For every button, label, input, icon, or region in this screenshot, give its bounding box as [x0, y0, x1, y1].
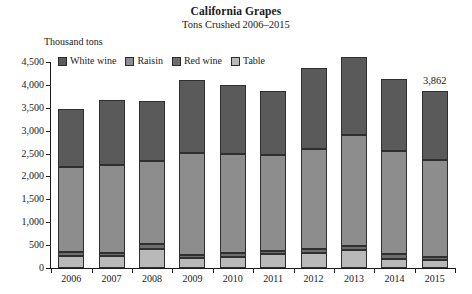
bar-segment-table[interactable]	[99, 256, 125, 268]
bar-segment-table[interactable]	[381, 259, 407, 268]
bar-segment-white-wine[interactable]	[260, 91, 286, 156]
bar-value-label: 3,862	[423, 76, 447, 86]
bar-segment-white-wine[interactable]	[381, 79, 407, 150]
bar-2008[interactable]	[139, 101, 165, 268]
x-axis-tick-label: 2008	[142, 274, 162, 284]
bar-segment-white-wine[interactable]	[301, 68, 327, 149]
bar-segment-raisin[interactable]	[220, 154, 246, 253]
bar-segment-raisin[interactable]	[422, 160, 448, 257]
bar-2009[interactable]	[179, 80, 205, 268]
x-axis-tick-label: 2006	[61, 274, 81, 284]
bar-segment-red-wine[interactable]	[99, 253, 125, 256]
bar-segment-white-wine[interactable]	[99, 100, 125, 165]
y-axis-tick-label: 4,500	[22, 57, 45, 67]
x-axis-tick	[374, 268, 375, 273]
x-axis-tick-label: 2010	[223, 274, 243, 284]
y-axis-tick	[46, 131, 51, 132]
y-axis-tick	[46, 62, 51, 63]
chart-subtitle: Tons Crushed 2006–2015	[0, 19, 472, 30]
bar-segment-table[interactable]	[58, 256, 84, 268]
y-axis-tick	[46, 154, 51, 155]
bar-2011[interactable]	[260, 91, 286, 268]
x-axis-tick	[415, 268, 416, 273]
bar-segment-table[interactable]	[260, 254, 286, 268]
x-axis-tick-label: 2011	[263, 274, 283, 284]
bar-segment-white-wine[interactable]	[422, 91, 448, 159]
y-axis-tick	[46, 222, 51, 223]
bar-segment-raisin[interactable]	[301, 149, 327, 249]
bar-segment-raisin[interactable]	[58, 167, 84, 252]
y-axis-tick	[46, 245, 51, 246]
y-axis-tick-label: 1,000	[22, 217, 45, 227]
x-axis-tick	[51, 268, 52, 273]
bar-2012[interactable]	[301, 68, 327, 268]
bar-segment-red-wine[interactable]	[301, 249, 327, 253]
bar-2013[interactable]	[341, 57, 367, 268]
x-axis-tick	[334, 268, 335, 273]
y-axis-tick-label: 0	[39, 263, 44, 273]
bar-segment-table[interactable]	[179, 258, 205, 268]
bar-segment-raisin[interactable]	[99, 165, 125, 253]
bar-segment-table[interactable]	[422, 260, 448, 268]
chart-title: California Grapes	[0, 5, 472, 17]
x-axis-tick-label: 2009	[182, 274, 202, 284]
y-axis-tick	[46, 108, 51, 109]
x-axis-tick-label: 2007	[102, 274, 122, 284]
y-axis-tick	[46, 176, 51, 177]
bar-2014[interactable]	[381, 79, 407, 268]
y-axis-tick-label: 3,000	[22, 126, 45, 136]
bar-segment-red-wine[interactable]	[139, 244, 165, 249]
bar-segment-raisin[interactable]	[381, 151, 407, 254]
x-axis-tick-label: 2015	[425, 274, 445, 284]
bar-segment-table[interactable]	[220, 257, 246, 268]
bar-2007[interactable]	[99, 100, 125, 268]
x-axis-tick	[172, 268, 173, 273]
y-axis-tick-label: 3,500	[22, 103, 45, 113]
x-axis-tick	[253, 268, 254, 273]
x-axis-tick	[132, 268, 133, 273]
bar-segment-raisin[interactable]	[139, 161, 165, 244]
bar-segment-white-wine[interactable]	[341, 57, 367, 136]
y-axis-tick-label: 2,000	[22, 171, 45, 181]
plot-area: 05001,0001,5002,0002,5003,0003,5004,0004…	[51, 62, 455, 268]
bar-segment-raisin[interactable]	[341, 135, 367, 246]
bar-segment-white-wine[interactable]	[220, 85, 246, 154]
bar-2010[interactable]	[220, 85, 246, 268]
x-axis-tick	[294, 268, 295, 273]
bar-segment-red-wine[interactable]	[422, 257, 448, 261]
bar-segment-red-wine[interactable]	[58, 252, 84, 255]
bar-segment-table[interactable]	[301, 253, 327, 268]
bar-2006[interactable]	[58, 109, 84, 268]
chart-container: California Grapes Tons Crushed 2006–2015…	[0, 0, 472, 294]
y-axis-tick-label: 4,000	[22, 80, 45, 90]
x-axis-tick-label: 2013	[344, 274, 364, 284]
bar-segment-white-wine[interactable]	[58, 109, 84, 168]
x-axis-tick	[92, 268, 93, 273]
bar-segment-red-wine[interactable]	[220, 253, 246, 257]
bar-segment-raisin[interactable]	[260, 155, 286, 250]
x-axis-tick	[455, 268, 456, 273]
y-axis-title: Thousand tons	[44, 36, 103, 47]
bar-segment-table[interactable]	[139, 249, 165, 268]
bar-segment-raisin[interactable]	[179, 153, 205, 255]
y-axis-tick-label: 1,500	[22, 194, 45, 204]
bar-segment-red-wine[interactable]	[260, 251, 286, 255]
y-axis-line	[50, 62, 51, 268]
y-axis-tick-label: 500	[29, 240, 44, 250]
bar-segment-red-wine[interactable]	[381, 254, 407, 259]
bar-2015[interactable]	[422, 91, 448, 268]
bar-segment-table[interactable]	[341, 250, 367, 268]
x-axis-tick-label: 2012	[304, 274, 324, 284]
bar-segment-white-wine[interactable]	[139, 101, 165, 161]
x-axis-tick	[213, 268, 214, 273]
y-axis-tick	[46, 199, 51, 200]
y-axis-tick-label: 2,500	[22, 149, 45, 159]
x-axis-tick-label: 2014	[384, 274, 404, 284]
bar-segment-white-wine[interactable]	[179, 80, 205, 153]
bar-segment-red-wine[interactable]	[179, 255, 205, 258]
y-axis-tick	[46, 85, 51, 86]
bar-segment-red-wine[interactable]	[341, 246, 367, 250]
